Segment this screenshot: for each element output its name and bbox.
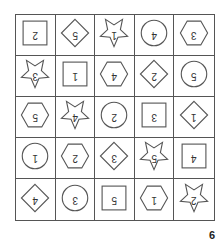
- grid-cell: 5: [135, 138, 175, 179]
- cell-number: 3: [174, 30, 214, 41]
- cell-number: 5: [16, 112, 55, 123]
- grid-cell: 2: [16, 15, 56, 56]
- grid-cell: 4: [174, 138, 214, 179]
- grid-cell: 3: [135, 97, 175, 138]
- grid-cell: 2: [95, 97, 135, 138]
- grid-cell: 1: [135, 179, 175, 220]
- grid-cell: 3: [174, 15, 214, 56]
- grid-cell: 5: [16, 97, 56, 138]
- cell-number: 1: [56, 71, 95, 82]
- cell-number: 4: [135, 30, 174, 41]
- cell-number: 2: [56, 153, 95, 164]
- puzzle-grid: 2514331425542311235443512: [15, 14, 215, 221]
- cell-number: 5: [135, 153, 174, 164]
- page-number: 6: [209, 229, 215, 241]
- grid-cell: 5: [174, 56, 214, 97]
- grid-cell: 1: [56, 56, 96, 97]
- cell-number: 3: [135, 112, 174, 123]
- grid-cell: 3: [16, 56, 56, 97]
- cell-number: 1: [174, 112, 214, 123]
- cell-number: 3: [95, 153, 134, 164]
- grid-cell: 5: [56, 15, 96, 56]
- grid-cell: 4: [56, 97, 96, 138]
- cell-number: 1: [135, 194, 174, 205]
- grid-cell: 3: [95, 138, 135, 179]
- cell-number: 3: [16, 71, 55, 82]
- cell-number: 4: [174, 153, 214, 164]
- cell-number: 4: [56, 112, 95, 123]
- grid-cell: 1: [16, 138, 56, 179]
- cell-number: 2: [95, 112, 134, 123]
- cell-number: 2: [174, 194, 214, 205]
- grid-cell: 2: [135, 56, 175, 97]
- cell-number: 4: [95, 71, 134, 82]
- cell-number: 3: [56, 194, 95, 205]
- cell-number: 5: [174, 71, 214, 82]
- cell-number: 1: [95, 30, 134, 41]
- cell-number: 1: [16, 153, 55, 164]
- grid-cell: 1: [174, 97, 214, 138]
- cell-number: 5: [95, 194, 134, 205]
- grid-cell: 2: [56, 138, 96, 179]
- grid-cell: 3: [56, 179, 96, 220]
- cell-number: 2: [16, 30, 55, 41]
- cell-number: 5: [56, 30, 95, 41]
- grid-cell: 4: [95, 56, 135, 97]
- grid-cell: 4: [135, 15, 175, 56]
- grid-cell: 4: [16, 179, 56, 220]
- grid-cell: 1: [95, 15, 135, 56]
- grid-cell: 5: [95, 179, 135, 220]
- grid-cell: 2: [174, 179, 214, 220]
- cell-number: 4: [16, 194, 55, 205]
- cell-number: 2: [135, 71, 174, 82]
